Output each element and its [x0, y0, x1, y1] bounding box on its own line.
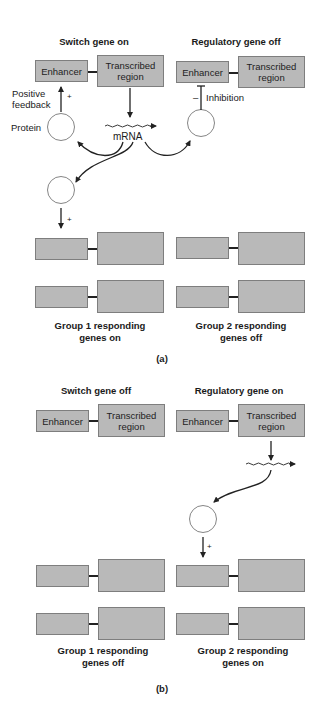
activator-circle — [190, 506, 217, 533]
mrna-to-activator-arrow — [214, 470, 271, 502]
mrna-wave — [105, 125, 154, 127]
protein-circle — [48, 114, 75, 141]
inhibitor-circle — [188, 110, 215, 137]
mrna-to-inhibitor-arrow — [145, 141, 190, 155]
activator-circle — [48, 177, 75, 204]
mrna-to-protein-arrow — [78, 142, 123, 156]
diagram-arrows — [0, 0, 324, 708]
mrna-wave — [246, 463, 291, 465]
